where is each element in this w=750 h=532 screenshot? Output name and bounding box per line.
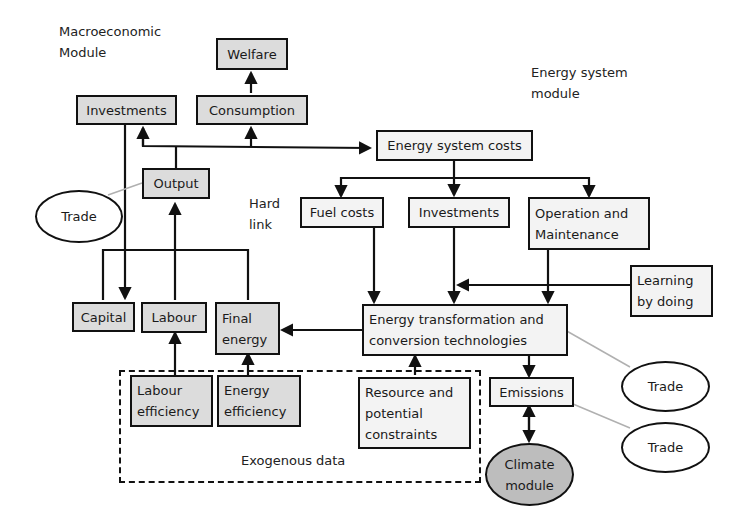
node-label: Final <box>222 308 252 329</box>
node-label: conversion technologies <box>369 330 527 351</box>
node-label: Output <box>153 173 198 194</box>
energy-efficiency-node: Energy efficiency <box>217 375 301 427</box>
node-label: efficiency <box>137 401 199 422</box>
node-label: Labour <box>152 307 197 328</box>
resource-constraints-node: Resource and potential constraints <box>358 377 471 449</box>
node-label: Trade <box>648 376 684 397</box>
fuel-costs-node: Fuel costs <box>300 197 384 228</box>
consumption-node: Consumption <box>196 95 308 125</box>
node-label: Consumption <box>209 100 295 121</box>
node-label: by doing <box>637 291 693 312</box>
final-energy-node: Final energy <box>215 302 280 355</box>
operation-maintenance-node: Operation and Maintenance <box>528 197 650 250</box>
emissions-node: Emissions <box>489 377 574 407</box>
node-label: Trade <box>61 206 97 227</box>
investments-energy-node: Investments <box>408 197 510 228</box>
node-label: Resource and <box>365 382 453 403</box>
energy-system-module-label: Energy system module <box>531 62 628 104</box>
node-label: Operation and <box>535 203 628 224</box>
hard-link-label: Hard link <box>249 193 280 235</box>
labour-node: Labour <box>141 302 207 333</box>
trade-ellipse-left: Trade <box>35 190 123 243</box>
label-line: link <box>249 214 280 235</box>
node-label: Capital <box>81 307 127 328</box>
macroeconomic-module-label: Macroeconomic Module <box>59 21 161 63</box>
climate-module-ellipse: Climate module <box>485 443 574 506</box>
welfare-node: Welfare <box>216 38 288 70</box>
node-label: Labour <box>137 380 182 401</box>
energy-transformation-node: Energy transformation and conversion tec… <box>362 304 568 356</box>
label-line: Hard <box>249 193 280 214</box>
trade-ellipse-right-top: Trade <box>621 361 710 412</box>
node-label: Energy system costs <box>387 135 522 156</box>
diagram-canvas: Macroeconomic Module Energy system modul… <box>0 0 750 532</box>
node-label: constraints <box>365 424 437 445</box>
node-label: Climate <box>504 454 554 475</box>
investments-macro-node: Investments <box>76 95 177 125</box>
node-label: Investments <box>86 100 166 121</box>
energy-system-costs-node: Energy system costs <box>376 130 533 161</box>
label-line: module <box>531 83 628 104</box>
node-label: Energy <box>224 380 270 401</box>
trade-ellipse-right-bottom: Trade <box>621 422 710 473</box>
learning-by-doing-node: Learning by doing <box>630 265 713 317</box>
node-label: potential <box>365 403 423 424</box>
node-label: Emissions <box>499 382 564 403</box>
node-label: module <box>505 475 554 496</box>
node-label: Learning <box>637 270 693 291</box>
node-label: Energy transformation and <box>369 309 544 330</box>
exogenous-data-label: Exogenous data <box>241 450 345 471</box>
label-line: Macroeconomic <box>59 21 161 42</box>
output-node: Output <box>142 168 210 199</box>
node-label: efficiency <box>224 401 286 422</box>
node-label: Investments <box>419 202 499 223</box>
label-line: Energy system <box>531 62 628 83</box>
labour-efficiency-node: Labour efficiency <box>130 375 213 427</box>
node-label: Fuel costs <box>310 202 375 223</box>
capital-node: Capital <box>72 302 135 332</box>
node-label: energy <box>222 329 267 350</box>
node-label: Maintenance <box>535 224 619 245</box>
node-label: Trade <box>648 437 684 458</box>
label-line: Module <box>59 42 161 63</box>
node-label: Welfare <box>227 44 276 65</box>
